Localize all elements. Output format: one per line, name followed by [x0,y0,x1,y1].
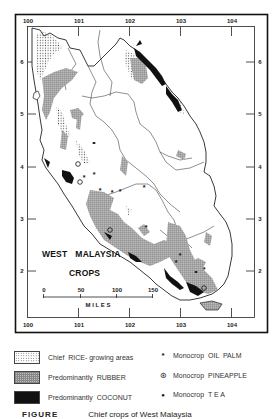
legend-item-oil-palm: * Monocrop OIL PALM [158,351,241,360]
rice-pattern-swatch [14,351,40,364]
coconut-pattern-swatch [14,391,40,404]
legend-item-tea: ● Monocrop T E A [158,391,225,398]
legend-label: Chief RICE- growing areas [48,354,133,361]
legend-label: Monocrop PINEAPPLE [173,372,247,379]
legend-item-coconut: Predominantly COCONUT [14,391,132,404]
pineapple-icon: ⊛ [158,371,168,380]
legend-label: Monocrop T E A [173,391,225,398]
legend-item-rubber: Predominantly RUBBER [14,371,126,384]
legend-label: Predominantly COCONUT [48,394,132,401]
legend-item-rice: Chief RICE- growing areas [14,351,133,364]
tea-icon: ● [158,392,168,398]
rubber-pattern-swatch [14,371,40,384]
legend-item-pineapple: ⊛ Monocrop PINEAPPLE [158,371,247,380]
caption-text: Chief crops of West Malaysia [88,410,191,419]
oil-palm-icon: * [158,351,168,360]
figure-label: FIGURE [22,410,58,419]
legend-label: Predominantly RUBBER [48,374,126,381]
legend-label: Monocrop OIL PALM [173,352,241,359]
figure-caption: FIGUREChief crops of West Malaysia [22,410,192,419]
